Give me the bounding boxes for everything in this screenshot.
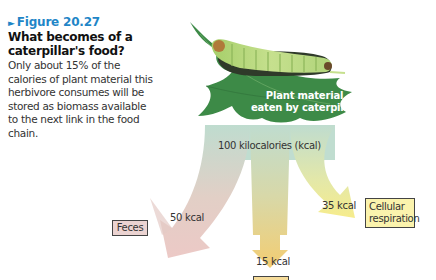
leaf-label: Plant material eaten by caterpillar — [247, 90, 362, 114]
feces-arrow-head — [150, 198, 172, 235]
feces-value-label: 50 kcal — [170, 212, 204, 223]
growth-box-partial — [253, 276, 289, 280]
caterpillar-image — [212, 39, 345, 76]
leaf-label-line-2: eaten by caterpillar — [247, 102, 362, 114]
respiration-value-label: 35 kcal — [322, 200, 356, 211]
respiration-line-2: respiration — [369, 213, 411, 225]
cellular-respiration-box: Cellular respiration — [365, 198, 415, 228]
input-energy-label: 100 kilocalories (kcal) — [218, 140, 321, 151]
respiration-line-1: Cellular — [369, 201, 411, 213]
growth-value-label: 15 kcal — [256, 256, 290, 267]
feces-box: Feces — [112, 220, 148, 236]
leaf-label-line-1: Plant material — [247, 90, 362, 102]
